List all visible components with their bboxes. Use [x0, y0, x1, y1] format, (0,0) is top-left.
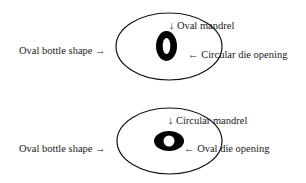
bottle-shape-label-top: Oval bottle shape → — [19, 45, 106, 57]
die-opening-label-top: ← Circular die opening — [188, 49, 287, 61]
die-opening-label-bottom: ← Oval die opening — [184, 143, 269, 155]
mandrel-label-top: ↓ Oval mandrel — [169, 20, 234, 32]
mandrel-label-bottom: ↓ Circular mandrel — [168, 115, 247, 127]
bottle-shape-label-bottom: Oval bottle shape → — [19, 143, 106, 155]
mandrel-oval — [163, 38, 171, 54]
diagram-canvas — [0, 0, 306, 183]
mandrel-circular — [164, 136, 175, 147]
